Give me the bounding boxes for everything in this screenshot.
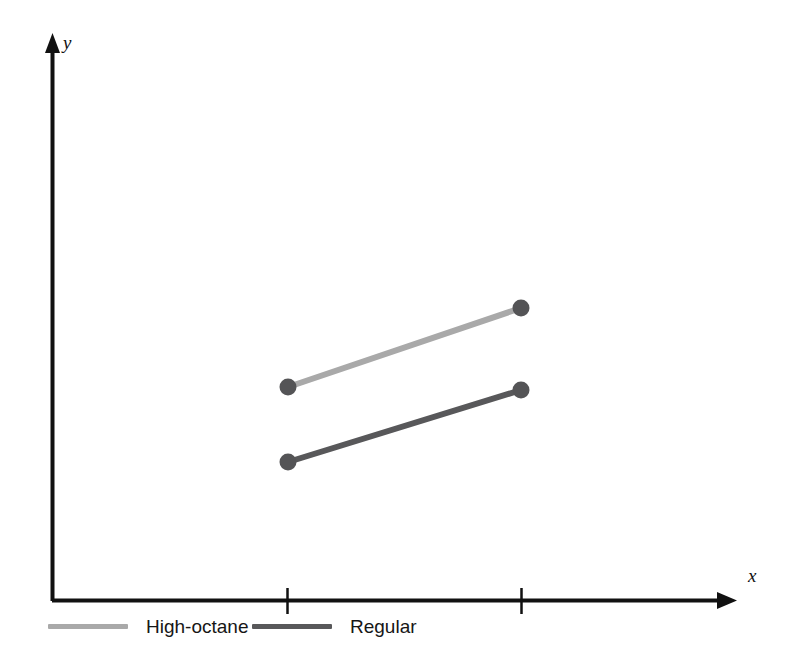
x-axis-arrowhead xyxy=(717,592,737,609)
legend-label-regular: Regular xyxy=(350,617,417,636)
chart-figure: y x High-octane Regular xyxy=(0,0,804,670)
chart-legend: High-octane Regular xyxy=(0,614,804,642)
series-high-octane xyxy=(280,300,530,396)
legend-swatch-regular xyxy=(252,624,332,629)
x-axis xyxy=(52,592,737,609)
y-axis-arrowhead xyxy=(45,33,60,53)
legend-item-regular: Regular xyxy=(252,614,417,638)
data-point-high-octane-1 xyxy=(280,379,297,396)
y-axis xyxy=(45,33,60,601)
data-point-high-octane-2 xyxy=(513,300,530,317)
x-axis-label: x xyxy=(748,566,756,585)
legend-item-high-octane: High-octane xyxy=(48,614,248,638)
series-regular xyxy=(280,382,530,471)
legend-label-high-octane: High-octane xyxy=(146,617,248,636)
data-point-regular-1 xyxy=(280,454,297,471)
plot-area xyxy=(0,0,804,670)
data-point-regular-2 xyxy=(513,382,530,399)
y-axis-label: y xyxy=(63,33,71,52)
series-regular-line xyxy=(288,390,521,462)
legend-swatch-high-octane xyxy=(48,624,128,629)
series-high-octane-line xyxy=(288,308,521,387)
